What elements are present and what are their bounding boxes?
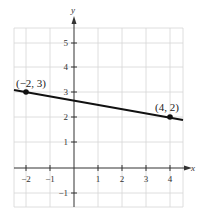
svg-text:3: 3: [144, 174, 149, 184]
svg-text:4: 4: [168, 174, 173, 184]
coordinate-plane-chart: x y −2 −1 1 2 3 4 −1 1 2 3 4 5 (−2, 3) (…: [0, 0, 202, 221]
svg-text:1: 1: [64, 137, 69, 147]
svg-text:−1: −1: [45, 174, 55, 184]
svg-text:2: 2: [64, 112, 69, 122]
y-axis: [71, 20, 77, 207]
y-axis-arrow-icon: [72, 16, 77, 24]
point-4-2: [167, 114, 173, 120]
y-tick-labels: −1 1 2 3 4 5: [58, 38, 68, 198]
x-tick-labels: −2 −1 1 2 3 4: [21, 174, 173, 184]
x-axis-label: x: [190, 163, 195, 173]
svg-text:−2: −2: [21, 174, 31, 184]
point-label-4-2: (4, 2): [155, 101, 179, 114]
x-axis: [14, 165, 188, 171]
y-axis-label: y: [70, 5, 75, 15]
svg-text:−1: −1: [58, 188, 68, 198]
svg-text:4: 4: [64, 62, 69, 72]
svg-text:2: 2: [120, 174, 125, 184]
svg-text:1: 1: [96, 174, 101, 184]
point-label-neg2-3: (−2, 3): [16, 77, 46, 90]
svg-text:3: 3: [64, 87, 69, 97]
svg-text:5: 5: [64, 38, 69, 48]
point-neg2-3: [23, 89, 29, 95]
